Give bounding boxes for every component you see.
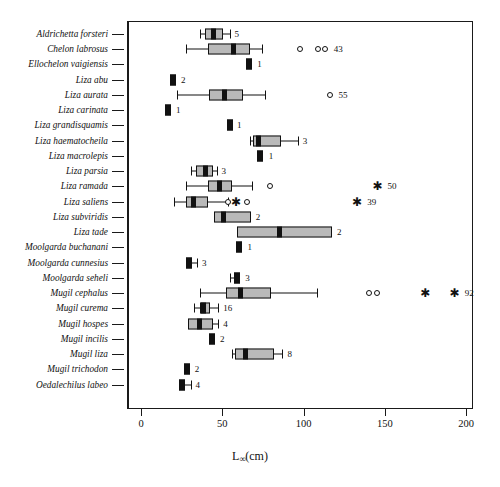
- boxplot-row[interactable]: 55: [128, 87, 473, 103]
- y-axis-tick: [112, 247, 124, 248]
- whisker-cap-low: [230, 273, 231, 282]
- boxplot-row[interactable]: 4: [128, 316, 473, 332]
- whisker-cap-high: [217, 167, 218, 176]
- species-label: Moolgarda cunnesius: [28, 258, 108, 268]
- whisker-cap-low: [200, 289, 201, 298]
- sample-size-label: 1: [269, 151, 274, 160]
- boxplot-row[interactable]: ✱✱92: [128, 285, 473, 301]
- whisker-cap-high: [317, 289, 318, 298]
- boxplot-row[interactable]: ✱✱39: [128, 194, 473, 210]
- sample-size-label: 2: [181, 75, 186, 84]
- whisker-cap-high: [298, 136, 299, 145]
- y-axis-tick: [112, 339, 124, 340]
- single-value-marker: [186, 257, 192, 268]
- sample-size-label: 39: [367, 197, 376, 206]
- species-label: Moolgarda seheli: [42, 273, 108, 283]
- whisker-cap-high: [191, 380, 192, 389]
- species-label: Liza abu: [76, 75, 108, 85]
- whisker-cap-low: [177, 90, 178, 99]
- median-marker: [238, 288, 243, 299]
- single-value-marker: [184, 364, 190, 375]
- boxplot-row[interactable]: 43: [128, 41, 473, 57]
- y-axis-tick: [112, 156, 124, 157]
- species-label: Mugil hospes: [58, 319, 108, 329]
- species-label: Mugil liza: [70, 349, 108, 359]
- species-label: Mugil cephalus: [50, 288, 108, 298]
- median-marker: [256, 135, 261, 146]
- species-label: Liza saliens: [64, 197, 108, 207]
- sample-size-label: 2: [256, 212, 261, 221]
- single-value-marker: [227, 120, 233, 131]
- species-label: Liza tade: [74, 227, 108, 237]
- y-axis-tick: [112, 110, 124, 111]
- boxplot-row[interactable]: 2: [128, 361, 473, 377]
- box: [237, 227, 332, 238]
- y-axis-tick: [112, 125, 124, 126]
- boxplot-row[interactable]: 1: [128, 117, 473, 133]
- outlier-circle-icon: [366, 290, 372, 296]
- box: [226, 288, 272, 299]
- boxplot-row[interactable]: 8: [128, 346, 473, 362]
- median-marker: [231, 44, 236, 55]
- boxplot-row[interactable]: 1: [128, 102, 473, 118]
- boxplot-row[interactable]: 2: [128, 209, 473, 225]
- species-label: Liza haematocheila: [35, 136, 108, 146]
- y-axis-tick: [112, 141, 124, 142]
- boxplot-row[interactable]: 5: [128, 26, 473, 42]
- median-marker: [222, 89, 227, 100]
- boxplot-row[interactable]: 1: [128, 56, 473, 72]
- y-axis-tick: [112, 80, 124, 81]
- sample-size-label: 2: [220, 334, 225, 343]
- x-axis-title-unit: (cm): [245, 449, 268, 463]
- species-label: Oedalechilus labeo: [36, 380, 108, 390]
- box: [235, 349, 274, 360]
- boxplot-row[interactable]: 1: [128, 239, 473, 255]
- single-value-marker: [165, 105, 171, 116]
- whisker-cap-high: [197, 258, 198, 267]
- whisker-cap-high: [252, 182, 253, 191]
- boxplot-row[interactable]: 3: [128, 270, 473, 286]
- sample-size-label: 55: [339, 90, 348, 99]
- y-axis-tick: [112, 95, 124, 96]
- sample-size-label: 92: [465, 289, 474, 298]
- sample-size-label: 1: [248, 243, 253, 252]
- sample-size-label: 5: [235, 30, 240, 39]
- sample-size-label: 4: [196, 380, 201, 389]
- y-axis-tick: [112, 34, 124, 35]
- boxplot-row[interactable]: 3: [128, 163, 473, 179]
- boxplot-row[interactable]: ✱50: [128, 178, 473, 194]
- median-marker: [243, 349, 248, 360]
- single-value-marker: [257, 150, 263, 161]
- boxplot-row[interactable]: 3: [128, 255, 473, 271]
- whisker-cap-high: [218, 319, 219, 328]
- boxplot-row[interactable]: 2: [128, 224, 473, 240]
- boxplot-row[interactable]: 3: [128, 133, 473, 149]
- x-axis-tick-label: 100: [296, 418, 312, 429]
- whisker-cap-low: [174, 197, 175, 206]
- boxplot-series-layer: 543125511313✱50✱✱3922133✱✱921642824: [128, 21, 473, 409]
- single-value-marker: [209, 333, 215, 344]
- species-label: Moolgarda buchanani: [25, 242, 108, 252]
- species-label-column: Aldrichetta forsteriChelon labrosusElloc…: [0, 21, 124, 409]
- outlier-circle-icon: [225, 199, 231, 205]
- species-label: Mugil incilis: [61, 334, 108, 344]
- boxplot-row[interactable]: 1: [128, 148, 473, 164]
- median-marker: [221, 211, 226, 222]
- whisker-cap-low: [250, 136, 251, 145]
- species-label: Liza aurata: [65, 90, 108, 100]
- single-value-marker: [236, 242, 242, 253]
- y-axis-tick: [112, 64, 124, 65]
- y-axis-tick: [112, 354, 124, 355]
- y-axis-tick: [112, 217, 124, 218]
- y-axis-tick: [112, 202, 124, 203]
- whisker-cap-high: [218, 304, 219, 313]
- boxplot-row[interactable]: 4: [128, 377, 473, 393]
- boxplot-row[interactable]: 2: [128, 331, 473, 347]
- x-axis-tick: [466, 409, 467, 416]
- single-value-marker: [234, 272, 240, 283]
- boxplot-row[interactable]: 2: [128, 72, 473, 88]
- median-marker: [217, 181, 222, 192]
- boxplot-row[interactable]: 16: [128, 300, 473, 316]
- y-axis-tick: [112, 293, 124, 294]
- whisker-cap-low: [200, 30, 201, 39]
